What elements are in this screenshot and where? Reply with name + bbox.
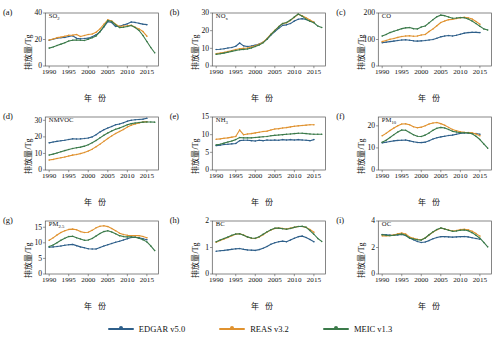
data-point (258, 236, 260, 238)
data-point (433, 238, 435, 240)
species-label-a: SO2 (49, 13, 60, 21)
data-point (421, 26, 423, 28)
x-tick-label: 1995 (228, 276, 243, 284)
data-point (282, 23, 284, 25)
data-point (309, 239, 311, 241)
data-point (91, 37, 93, 39)
y-tick-label: 4 (372, 216, 376, 225)
data-point (317, 25, 319, 27)
panel-g: (g)排放量/Tg051015199019952000200520102015P… (0, 208, 167, 312)
x-tick-label: 2015 (473, 172, 488, 180)
data-point (262, 42, 264, 44)
data-point (313, 241, 315, 243)
data-point (258, 140, 260, 142)
data-point (111, 135, 113, 137)
data-point (270, 229, 272, 231)
data-point (405, 39, 407, 41)
legend-item-meic[interactable]: MEIC v1.3 (323, 324, 392, 334)
data-point (274, 30, 276, 32)
panel-c: (c)排放量/Tg0100200199019952000200520102015… (333, 0, 500, 104)
data-point (409, 35, 411, 37)
x-tick-label: 1995 (228, 172, 243, 180)
data-point (56, 234, 58, 236)
data-point (130, 123, 132, 125)
plot-area-a: 02040199019952000200520102015SO2 (31, 8, 162, 80)
data-point (417, 241, 419, 243)
data-point (60, 245, 62, 247)
x-tick-label: 1995 (395, 172, 410, 180)
data-point (409, 132, 411, 134)
data-point (282, 134, 284, 136)
x-tick-label: 2015 (140, 172, 155, 180)
data-point (91, 136, 93, 138)
data-point (413, 28, 415, 30)
data-point (87, 248, 89, 250)
data-point (409, 237, 411, 239)
species-label-b: NOx (216, 13, 229, 21)
data-point (293, 133, 295, 135)
data-point (250, 47, 252, 49)
x-tick-label: 2010 (454, 172, 469, 180)
data-point (429, 240, 431, 242)
data-point (48, 240, 50, 242)
data-point (436, 16, 438, 17)
data-point (487, 29, 489, 31)
data-point (476, 32, 478, 34)
data-point (305, 124, 307, 126)
panel-b: (b)排放量/Tg0102030199019952000200520102015… (167, 0, 334, 104)
data-point (305, 140, 307, 142)
data-point (111, 228, 113, 230)
x-tick-label: 2015 (306, 172, 321, 180)
data-point (239, 137, 241, 139)
data-point (472, 18, 474, 20)
data-point (390, 38, 392, 40)
data-point (246, 137, 248, 139)
x-tick-label: 1995 (228, 68, 243, 76)
x-tick-label: 1990 (42, 276, 57, 284)
data-point (134, 119, 136, 121)
data-point (254, 46, 256, 48)
data-point (421, 40, 423, 42)
data-point (154, 121, 156, 123)
x-tick-label: 2000 (248, 68, 263, 76)
data-point (223, 238, 225, 240)
data-point (313, 124, 315, 126)
data-point (305, 18, 307, 20)
data-point (413, 141, 415, 143)
x-tick-label: 1995 (62, 172, 77, 180)
x-tick-label: 2015 (306, 68, 321, 76)
data-point (76, 34, 78, 36)
plot-area-f: 01020199019952000200520102015PM10 (364, 112, 495, 184)
legend-item-edgar[interactable]: EDGAR v5.0 (108, 324, 185, 334)
data-point (456, 230, 458, 232)
legend-item-reas[interactable]: REAS v3.2 (219, 324, 289, 334)
data-point (297, 133, 299, 135)
data-point (297, 139, 299, 141)
data-point (425, 25, 427, 27)
species-label-d: NMVOC (49, 117, 74, 124)
data-point (80, 153, 82, 155)
y-tick-label: 20 (201, 26, 209, 35)
data-point (417, 239, 419, 241)
data-point (142, 121, 144, 123)
series-line-meic (49, 231, 154, 251)
x-tick-label: 2010 (454, 68, 469, 76)
data-point (242, 140, 244, 142)
data-point (84, 145, 86, 147)
data-point (297, 226, 299, 228)
data-point (246, 48, 248, 50)
data-point (460, 230, 462, 232)
data-point (52, 38, 54, 40)
panel-i: (i)排放量/Tg024199019952000200520102015OC年 … (333, 208, 500, 312)
data-point (223, 52, 225, 54)
data-point (48, 47, 50, 49)
data-point (476, 21, 478, 23)
data-point (262, 136, 264, 138)
data-point (123, 129, 125, 131)
x-tick-label: 1995 (62, 68, 77, 76)
data-point (242, 45, 244, 47)
data-point (405, 139, 407, 141)
data-point (107, 244, 109, 246)
data-point (227, 141, 229, 143)
data-point (250, 133, 252, 135)
